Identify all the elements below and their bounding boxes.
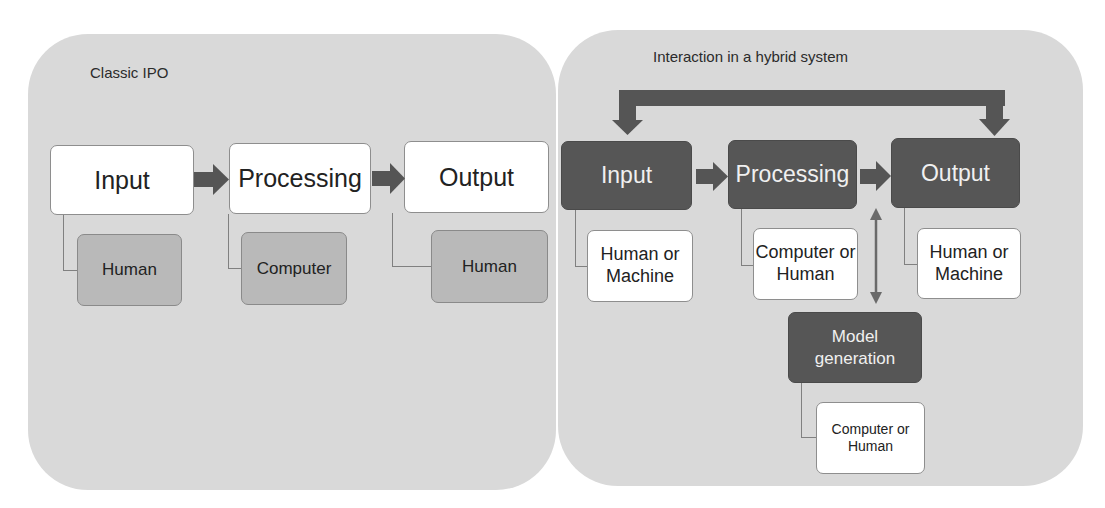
double-arrow-icon bbox=[870, 208, 882, 304]
arrow-right-icon bbox=[194, 164, 229, 195]
arrows-layer bbox=[0, 0, 1105, 508]
arrow-right-icon bbox=[860, 161, 891, 191]
arrow-right-icon bbox=[372, 163, 405, 194]
feedback-loop-arrow-icon bbox=[612, 90, 1010, 136]
arrow-right-icon bbox=[696, 162, 728, 191]
